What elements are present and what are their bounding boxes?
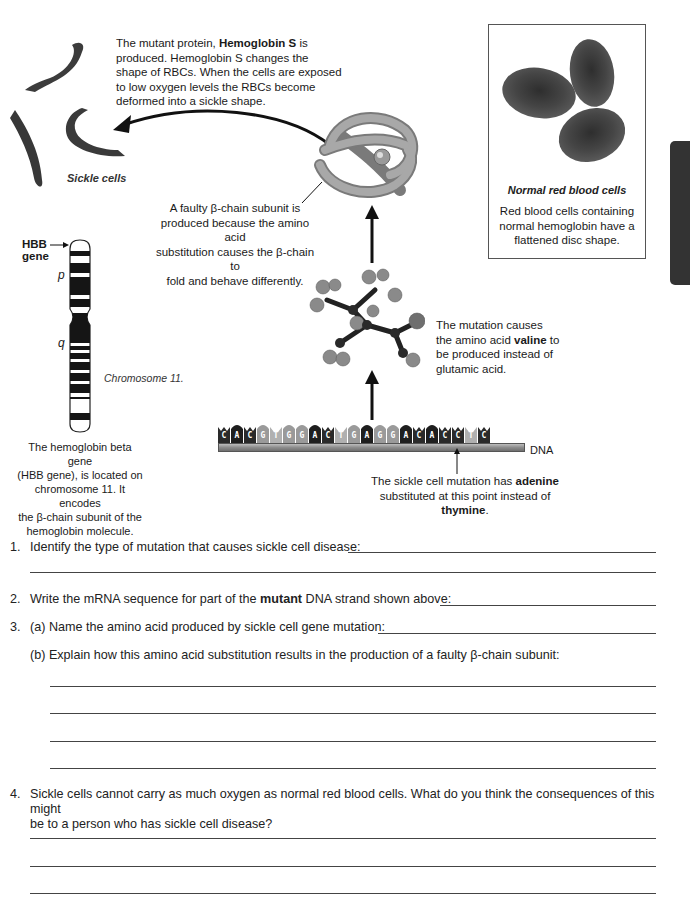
base-letter: G <box>257 431 269 440</box>
dna-label: DNA <box>530 444 553 456</box>
dna-base: G <box>283 423 295 443</box>
base-letter: A <box>361 431 373 440</box>
valine-molecule-illustration <box>305 265 425 370</box>
question-4: 4. Sickle cells cannot carry as much oxy… <box>10 787 670 832</box>
question-text: Write the mRNA sequence for part of the <box>30 592 260 606</box>
dna-bases: CACGTGGACTGAGGACACCTC <box>218 423 490 443</box>
caption-line: (HBB gene), is located on <box>15 468 145 482</box>
dna-base: C <box>439 423 451 443</box>
base-letter: A <box>309 431 321 440</box>
answer-line-q3b[interactable] <box>50 713 656 714</box>
answer-line-q2[interactable] <box>440 605 656 606</box>
answer-line-q1[interactable] <box>30 572 656 573</box>
caption-line: fold and behave differently. <box>150 274 320 289</box>
label-line: gene <box>22 250 49 262</box>
chromosome-11-illustration <box>68 239 92 434</box>
caption-line: A faulty β-chain subunit is <box>150 201 320 216</box>
arrow-right-icon <box>50 241 70 249</box>
answer-line-q3b[interactable] <box>50 741 656 742</box>
dna-backbone <box>218 443 525 452</box>
base-letter: G <box>348 431 360 440</box>
base-letter: T <box>335 431 347 440</box>
dna-strand: CACGTGGACTGAGGACACCTC <box>218 423 518 458</box>
question-text: (a) Name the amino acid produced by sick… <box>30 620 385 634</box>
dna-base: A <box>231 423 243 443</box>
base-letter: C <box>322 431 334 440</box>
base-letter: G <box>296 431 308 440</box>
caption-text: substituted at this point instead of <box>380 490 551 502</box>
base-letter: G <box>283 431 295 440</box>
question-number: 4. <box>10 787 21 802</box>
answer-line-q4[interactable] <box>30 866 656 867</box>
answer-line-q3b[interactable] <box>50 768 656 769</box>
normal-rbc-panel: Normal red blood cells Red blood cells c… <box>488 24 646 259</box>
up-arrow-icon <box>365 205 379 263</box>
answer-line-q1[interactable] <box>348 552 656 553</box>
dna-base: A <box>426 423 438 443</box>
answer-line-q4[interactable] <box>30 838 656 839</box>
sickle-cells-label: Sickle cells <box>67 171 126 186</box>
normal-rbc-title: Normal red blood cells <box>489 184 645 196</box>
caption-line: produced because the amino acid <box>150 216 320 245</box>
caption-line: The mutation causes <box>436 318 576 333</box>
question-text: Identify the type of mutation that cause… <box>30 540 360 554</box>
base-letter: A <box>426 431 438 440</box>
section-tab <box>670 141 690 285</box>
caption-text: to <box>547 334 560 346</box>
curved-arrow-icon <box>105 95 335 155</box>
caption-line: the β-chain subunit of the <box>15 510 145 524</box>
caption-line: flattened disc shape. <box>489 233 645 248</box>
dna-base: C <box>244 423 256 443</box>
base-letter: A <box>231 431 243 440</box>
base-letter: T <box>465 431 477 440</box>
caption-line: substitution causes the β-chain to <box>150 245 320 274</box>
caption-line: to low oxygen levels the RBCs become <box>116 80 346 95</box>
mutation-pointer-icon <box>453 448 461 474</box>
caption-text: The mutant protein, <box>116 37 219 49</box>
thymine-term: thymine <box>441 504 485 516</box>
caption-line: normal hemoglobin have a <box>489 219 645 234</box>
answer-line-q3b[interactable] <box>50 686 656 687</box>
dna-base: A <box>400 423 412 443</box>
dna-base: C <box>413 423 425 443</box>
normal-rbc-illustration <box>497 33 637 173</box>
dna-base: C <box>478 423 490 443</box>
caption-text: . <box>485 504 488 516</box>
hbb-gene-label: HBB gene <box>22 238 49 262</box>
answer-line-q4[interactable] <box>30 893 656 894</box>
dna-base: G <box>387 423 399 443</box>
base-letter: C <box>218 431 230 440</box>
dna-base: G <box>348 423 360 443</box>
valine-caption: The mutation causes the amino acid valin… <box>436 318 576 376</box>
up-arrow-icon <box>365 370 379 420</box>
dna-base: T <box>270 423 282 443</box>
question-number: 3. <box>10 620 21 635</box>
dna-base: G <box>374 423 386 443</box>
mutation-caption: The sickle cell mutation has adenine sub… <box>365 474 565 518</box>
answer-line-q3a[interactable] <box>378 633 656 634</box>
dna-base: T <box>465 423 477 443</box>
question-text: (b) Explain how this amino acid substitu… <box>30 648 559 662</box>
arm-q-label: q <box>58 336 65 350</box>
caption-line: hemoglobin molecule. <box>15 524 145 538</box>
base-letter: C <box>439 431 451 440</box>
caption-line: The hemoglobin beta gene <box>15 440 145 468</box>
base-letter: G <box>374 431 386 440</box>
dna-base: G <box>296 423 308 443</box>
dna-base: G <box>257 423 269 443</box>
caption-text: is <box>296 37 308 49</box>
mutant-term: mutant <box>260 592 302 606</box>
faulty-chain-caption: A faulty β-chain subunit is produced bec… <box>150 201 320 288</box>
base-letter: C <box>244 431 256 440</box>
hemoglobin-s-term: Hemoglobin S <box>219 37 296 49</box>
chromosome-label: Chromosome 11. <box>104 372 184 384</box>
caption-line: produced. Hemoglobin S changes the <box>116 51 346 66</box>
caption-text: The sickle cell mutation has <box>371 475 515 487</box>
question-text: be to a person who has sickle cell disea… <box>30 817 670 832</box>
question-number: 1. <box>10 540 21 555</box>
dna-base: C <box>322 423 334 443</box>
dna-base: A <box>309 423 321 443</box>
arm-p-label: p <box>58 268 65 282</box>
caption-line: Red blood cells containing <box>489 204 645 219</box>
question-text: DNA strand shown above: <box>302 592 451 606</box>
